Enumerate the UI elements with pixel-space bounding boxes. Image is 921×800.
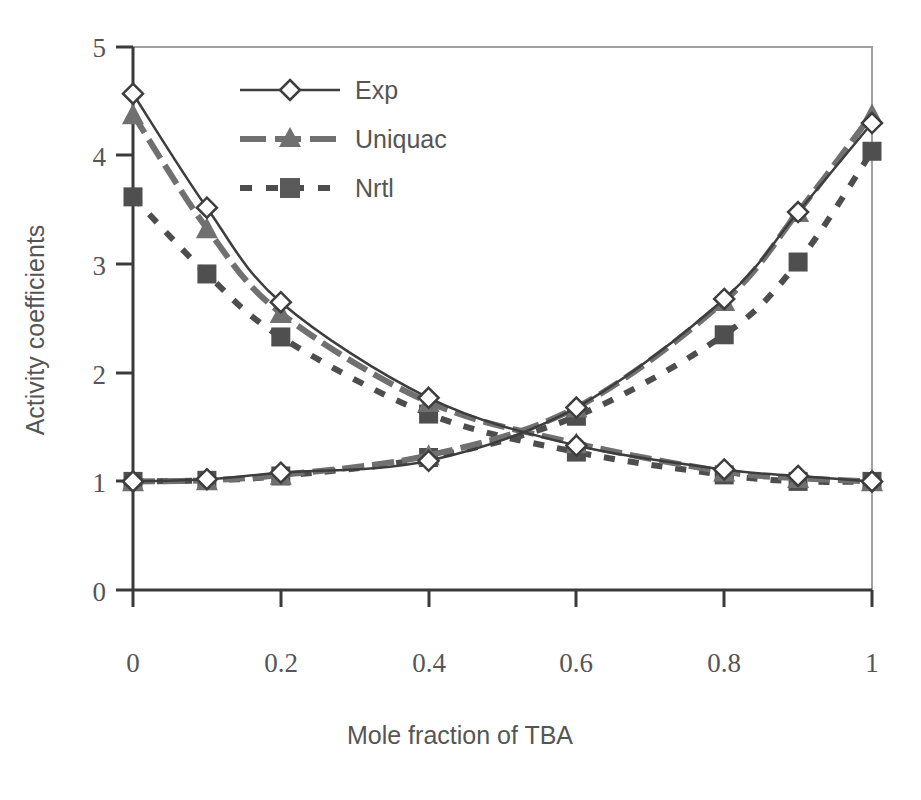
y-tick-label-5: 5: [93, 33, 107, 63]
legend-label-uniquac: Uniquac: [355, 125, 447, 153]
legend: Exp Uniquac Nrtl: [240, 76, 447, 202]
x-tick-label-0: 0: [126, 648, 140, 678]
diamond-open-marker: [123, 84, 143, 104]
series-line: [133, 151, 872, 481]
legend-entry-nrtl[interactable]: Nrtl: [240, 174, 394, 202]
legend-entry-exp[interactable]: Exp: [240, 76, 398, 104]
square-filled-marker: [715, 325, 734, 344]
y-tick-label-4: 4: [93, 142, 107, 172]
x-tick-label-0-4: 0.4: [412, 648, 446, 678]
square-filled-marker: [271, 327, 290, 346]
legend-label-nrtl: Nrtl: [355, 174, 394, 202]
data-series-layer: [122, 84, 883, 492]
legend-label-exp: Exp: [355, 76, 398, 104]
y-tick-label-2: 2: [93, 360, 107, 390]
series-exp-gamma-1-descending: [123, 84, 882, 492]
activity-coefficients-chart: 5 4 3 2 1 0 0 0.2 0.4 0.6 0.8 1 Mole fra…: [0, 0, 921, 800]
x-tick-label-0-8: 0.8: [707, 648, 741, 678]
y-tick-label-3: 3: [93, 251, 107, 281]
x-tick-label-0-2: 0.2: [264, 648, 298, 678]
square-filled-marker: [124, 187, 143, 206]
legend-entry-uniquac[interactable]: Uniquac: [240, 125, 447, 153]
series-nrtl-gamma-1-descending: [124, 187, 882, 491]
x-tick-label-1: 1: [865, 648, 879, 678]
y-axis-title: Activity coefficients: [21, 225, 49, 436]
plot-frame: [133, 47, 872, 590]
y-tick-label-0: 0: [93, 577, 107, 607]
y-tick-marks: [116, 47, 133, 590]
square-filled-marker: [863, 142, 882, 161]
square-filled-marker: [197, 264, 216, 283]
square-filled-icon: [280, 178, 300, 198]
series-line: [133, 94, 872, 482]
square-filled-marker: [789, 253, 808, 272]
x-tick-marks: [133, 590, 872, 607]
y-tick-label-1: 1: [93, 468, 107, 498]
x-tick-label-0-6: 0.6: [559, 648, 593, 678]
diamond-open-icon: [280, 80, 300, 100]
x-axis-title: Mole fraction of TBA: [347, 721, 573, 749]
chart-figure: 5 4 3 2 1 0 0 0.2 0.4 0.6 0.8 1 Mole fra…: [0, 0, 921, 800]
